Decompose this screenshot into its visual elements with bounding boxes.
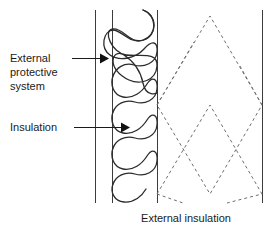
diagram-caption: External insulation [141,212,231,224]
label-external-protective-system: External protective system [10,52,109,92]
dashed-diamond-lower [157,105,262,203]
dashed-diagonal-bottom-left [157,194,183,203]
dashed-diagonal-top-left [157,42,194,105]
wall-structure-lines [96,10,263,203]
arrowhead-insulation [121,123,130,133]
label-line-insulation: Insulation [10,121,57,133]
insulation-serpentine-curve-2 [113,10,154,41]
arrowhead-external-protective-system [100,54,109,64]
label-line-system: system [10,80,45,92]
diagram-canvas: External protective system Insulation Ex… [0,0,278,231]
insulation-hatch-pattern [104,10,157,202]
label-line-external: External [10,52,50,64]
substrate-dashed-hatch [157,16,262,203]
label-line-protective: protective [10,66,58,78]
external-insulation-diagram: External protective system Insulation Ex… [0,0,278,231]
insulation-loop-3 [112,112,157,148]
insulation-loop-5 [112,184,146,202]
dashed-diagonal-top-right [240,66,262,105]
insulation-loop-4 [112,148,157,184]
